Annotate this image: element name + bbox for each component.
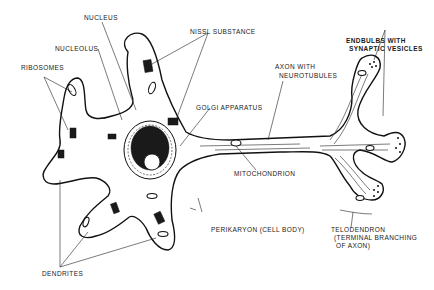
label-nissl-substance: NISSL SUBSTANCE bbox=[190, 28, 256, 36]
nucleolus-shape bbox=[144, 154, 160, 170]
label-telodendron-line3: OF AXON) bbox=[336, 242, 370, 250]
neuron-diagram: NUCLEUS NUCLEOLUS RIBOSOMES NISSL SUBSTA… bbox=[0, 0, 434, 290]
label-telodendron-line2: (TERMINAL BRANCHING bbox=[334, 234, 417, 242]
label-ribosomes: RIBOSOMES bbox=[21, 64, 64, 72]
label-mitochondrion: MITOCHONDRION bbox=[234, 170, 295, 178]
label-endbulbs-line1: ENDBULBS WITH bbox=[346, 37, 406, 45]
label-nucleolus: NUCLEOLUS bbox=[55, 45, 98, 53]
label-dendrites: DENDRITES bbox=[42, 270, 83, 278]
label-perikaryon: PERIKARYON (CELL BODY) bbox=[211, 226, 305, 234]
label-golgi-apparatus: GOLGI APPARATUS bbox=[196, 104, 262, 112]
label-endbulbs-line2: SYNAPTIC VESICLES bbox=[349, 45, 423, 53]
label-telodendron-line1: TELODENDRON bbox=[331, 226, 385, 234]
label-axon-line2: NEUROTUBULES bbox=[279, 72, 337, 80]
label-nucleus: NUCLEUS bbox=[84, 14, 118, 22]
label-axon-line1: AXON WITH bbox=[275, 63, 315, 71]
cell-body-outline bbox=[43, 33, 405, 250]
